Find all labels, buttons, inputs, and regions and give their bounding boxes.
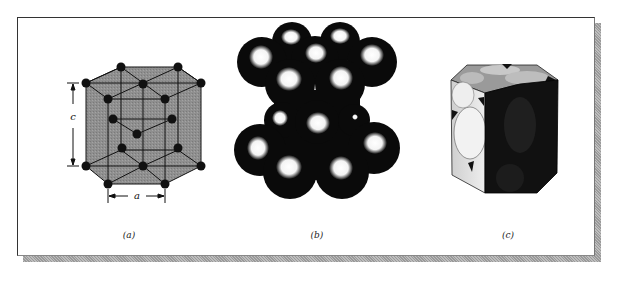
dimension-c-label: c <box>70 111 76 122</box>
figure-canvas: c a <box>0 0 621 285</box>
dimension-a-label: a <box>134 190 140 201</box>
caption-c: (c) <box>502 230 514 240</box>
caption-a: (a) <box>123 230 135 240</box>
dimension-c-arrow <box>67 83 79 166</box>
caption-b: (b) <box>311 230 324 240</box>
panel-b-hard-sphere-model <box>234 22 400 199</box>
panel-a-hcp-unit-cell: c a <box>67 63 206 204</box>
panel-c-sectioned-cell <box>451 64 558 193</box>
